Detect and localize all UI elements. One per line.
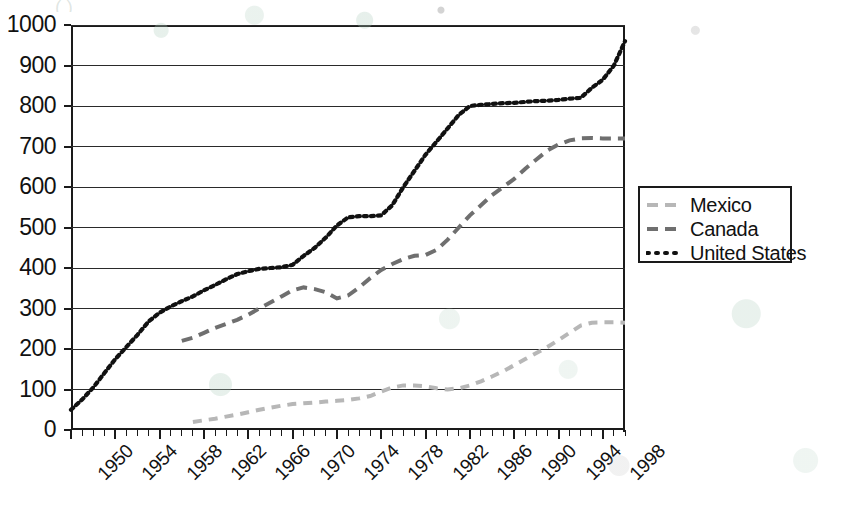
legend-label: Canada [690,219,758,239]
legend: MexicoCanadaUnited States [638,186,792,263]
legend-item-mexico[interactable]: Mexico [646,192,752,217]
legend-label: United States [690,243,806,263]
legend-swatch-icon [646,198,684,212]
line-chart-figure: ( ) 01002003004005006007008009001000 195… [0,0,848,506]
legend-item-united-states[interactable]: United States [646,240,806,265]
legend-label: Mexico [690,195,752,215]
legend-swatch-icon [646,222,684,236]
series-line-united-states [71,41,625,410]
series-line-canada [182,138,625,341]
legend-item-canada[interactable]: Canada [646,216,758,241]
series-line-mexico [193,322,625,422]
legend-swatch-icon [646,246,684,260]
